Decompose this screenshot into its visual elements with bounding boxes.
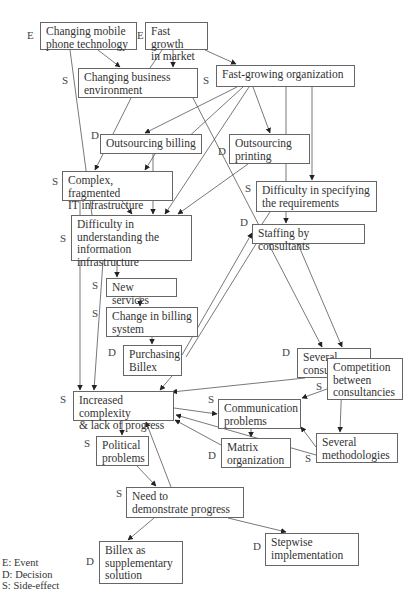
node-competition: Competition between consultancies	[327, 358, 403, 400]
node-type-tag: S	[60, 393, 66, 405]
node-type-tag: D	[91, 129, 99, 141]
causal-diagram	[0, 0, 420, 612]
node-increased: Increased complexity & lack of progress	[73, 391, 174, 421]
node-type-tag: S	[116, 487, 122, 499]
node-stepwise: Stepwise implementation	[265, 533, 359, 566]
node-type-tag: S	[305, 452, 311, 464]
node-type-tag: S	[92, 307, 98, 319]
node-type-tag: E	[27, 29, 34, 41]
node-market: Fast growth in market	[145, 22, 208, 50]
node-type-tag: D	[282, 346, 290, 358]
node-type-tag: S	[60, 232, 66, 244]
node-type-tag: S	[84, 437, 90, 449]
node-business: Changing business environment	[78, 68, 198, 98]
legend-item-event: E: Event	[2, 557, 59, 569]
node-staffing: Staffing by consultants	[252, 224, 365, 244]
legend-item-decision: D: Decision	[2, 569, 59, 581]
node-type-tag: D	[108, 346, 116, 358]
node-matrix: Matrix organization	[221, 438, 291, 468]
node-newservices: New services	[106, 278, 177, 297]
node-type-tag: D	[218, 145, 226, 157]
node-demonstrate: Need to demonstrate progress	[126, 487, 244, 518]
node-complex: Complex, fragmented IT infrastructure	[62, 171, 173, 201]
node-changebilling: Change in billing system	[106, 307, 198, 337]
node-understanding: Difficulty in understanding the informat…	[71, 215, 192, 261]
node-type-tag: S	[52, 175, 58, 187]
node-type-tag: D	[253, 540, 261, 552]
node-type-tag: E	[137, 29, 144, 41]
node-type-tag: S	[245, 182, 251, 194]
legend: E: Event D: Decision S: Side-effect	[2, 557, 59, 592]
node-political: Political problems	[96, 436, 149, 466]
node-type-tag: D	[208, 449, 216, 461]
node-printing: Outsourcing printing	[229, 134, 310, 164]
node-supplementary: Billex as supplementary solution	[99, 541, 183, 584]
node-billing: Outsourcing billing	[100, 134, 202, 154]
node-type-tag: S	[316, 380, 322, 392]
node-fastorg: Fast-growing organization	[216, 65, 355, 87]
node-type-tag: S	[92, 279, 98, 291]
node-type-tag: S	[62, 74, 68, 86]
node-specifying: Difficulty in specifying the requirement…	[256, 181, 377, 212]
node-mobile: Changing mobile phone technology	[40, 22, 137, 50]
node-billex: Purchasing Billex	[123, 345, 182, 376]
node-type-tag: S	[208, 393, 214, 405]
node-methodologies: Several methodologies	[316, 433, 398, 463]
node-type-tag: D	[86, 555, 94, 567]
node-type-tag: D	[240, 216, 248, 228]
legend-item-side-effect: S: Side-effect	[2, 580, 59, 592]
node-communication: Communication problems	[218, 399, 301, 429]
node-type-tag: S	[203, 74, 209, 86]
